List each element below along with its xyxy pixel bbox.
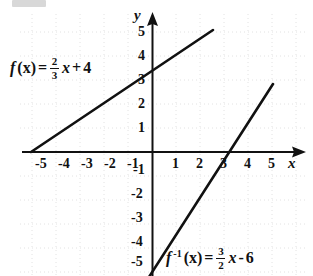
x-tick-3: 3: [220, 157, 227, 171]
y-tick-3: 3: [138, 73, 145, 87]
line-f-of-x: [31, 30, 213, 152]
function-name: f: [10, 60, 15, 76]
inverse-equation-label: f-1(x) = 3 2 x - 6: [166, 246, 254, 271]
x-tick-neg-5: -5: [35, 157, 47, 171]
x-axis-label: x: [288, 156, 296, 171]
x-tick-neg-4: -4: [58, 157, 70, 171]
inverse-fraction: 3 2: [216, 246, 225, 271]
function-fraction-denominator: 3: [51, 70, 59, 81]
function-fraction-numerator: 2: [51, 56, 59, 67]
y-tick-neg-5: -5: [131, 255, 143, 269]
x-tick-4: 4: [244, 157, 251, 171]
inverse-fraction-numerator: 3: [217, 246, 225, 257]
x-tick-5: 5: [268, 157, 275, 171]
x-tick-2: 2: [196, 157, 203, 171]
y-tick-neg-1: -1: [133, 163, 145, 177]
y-tick-2: 2: [138, 97, 145, 111]
x-tick-neg-2: -2: [104, 157, 116, 171]
function-operator: +: [72, 60, 81, 76]
y-tick-neg-2: -2: [131, 187, 143, 201]
x-tick-1: 1: [172, 157, 179, 171]
y-axis: [147, 12, 158, 276]
inverse-name: f: [166, 250, 171, 266]
coordinate-plane: [0, 0, 313, 276]
function-constant: 4: [83, 60, 91, 76]
graph-figure: y x -5 -4 -3 -2 -1 1 2 3 4 5 1 2 3 4 5 -…: [0, 0, 313, 276]
inverse-fraction-denominator: 2: [217, 260, 225, 271]
y-axis-label: y: [134, 8, 141, 23]
inverse-exponent: -1: [173, 249, 181, 259]
y-tick-neg-3: -3: [131, 211, 143, 225]
inverse-variable: x: [228, 250, 236, 266]
x-tick-neg-3: -3: [81, 157, 93, 171]
grid-lines: [20, 14, 308, 276]
y-tick-neg-4: -4: [131, 235, 143, 249]
inverse-equals-sign: =: [204, 250, 213, 266]
inverse-argument: (x): [184, 250, 203, 266]
y-tick-5: 5: [138, 25, 145, 39]
y-tick-1: 1: [138, 121, 145, 135]
function-equals-sign: =: [38, 60, 47, 76]
y-tick-4: 4: [138, 49, 145, 63]
function-variable: x: [62, 60, 70, 76]
inverse-constant: 6: [246, 250, 254, 266]
function-argument: (x): [17, 60, 36, 76]
function-fraction: 2 3: [50, 56, 59, 81]
inverse-operator: -: [238, 250, 243, 266]
function-equation-label: f(x) = 2 3 x + 4: [10, 56, 91, 81]
